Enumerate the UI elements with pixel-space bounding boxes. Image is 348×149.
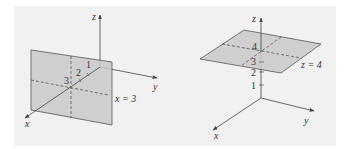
figure-canvas: z y x 1 2 3 x = 3 z y x 4 3 2 1 z = [0, 0, 348, 149]
x-axis-label: x [24, 118, 30, 129]
y-axis-label: y [303, 115, 309, 126]
tick-label-3: 3 [251, 56, 256, 67]
plane-label: x = 3 [114, 93, 136, 104]
x-axis-label: x [213, 130, 219, 141]
z-axis-label: z [91, 11, 96, 22]
figure: z y x 1 2 3 x = 3 z y x 4 3 2 1 z = [0, 0, 348, 149]
tick-label-2: 2 [251, 67, 256, 78]
tick-label-4: 4 [252, 41, 257, 52]
tick-label-1: 1 [251, 80, 256, 91]
z-axis-label: z [251, 13, 256, 24]
tick-label-3: 3 [64, 75, 69, 86]
tick-label-1: 1 [86, 59, 91, 70]
plane-label: z = 4 [300, 59, 322, 70]
tick-label-2: 2 [76, 67, 81, 78]
y-axis-label: y [152, 81, 158, 92]
